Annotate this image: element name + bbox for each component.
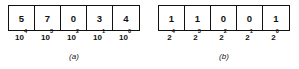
weight-base: 2 (167, 33, 171, 42)
digit-cell: 1 (263, 6, 289, 30)
digit-cell: 3 (87, 6, 113, 30)
weight-base: 2 (271, 33, 275, 42)
weight-label: 100 (112, 33, 138, 42)
weight-base: 10 (41, 33, 50, 42)
positional-notation-figure: 5 7 0 3 4 104 103 102 101 100 (a) 1 1 0 … (0, 0, 299, 69)
digit-box-decimal: 5 7 0 3 4 (8, 5, 140, 31)
weight-base: 10 (119, 33, 128, 42)
weight-label: 104 (8, 33, 34, 42)
weight-base: 10 (93, 33, 102, 42)
digit-cell: 1 (159, 6, 185, 30)
weight-base: 2 (193, 33, 197, 42)
weight-label: 101 (86, 33, 112, 42)
weight-base: 2 (219, 33, 223, 42)
panel-caption: (b) (158, 52, 290, 61)
weight-base: 10 (15, 33, 24, 42)
weight-label: 24 (158, 33, 184, 42)
weight-labels-binary: 24 23 22 21 20 (158, 33, 288, 42)
digit-cell: 0 (237, 6, 263, 30)
weight-label: 103 (34, 33, 60, 42)
weight-labels-decimal: 104 103 102 101 100 (8, 33, 138, 42)
digit-cell: 5 (9, 6, 35, 30)
digit-cell: 4 (113, 6, 139, 30)
digit-cell: 1 (185, 6, 211, 30)
weight-base: 2 (245, 33, 249, 42)
digit-cell: 7 (35, 6, 61, 30)
weight-label: 102 (60, 33, 86, 42)
weight-label: 20 (262, 33, 288, 42)
weight-label: 22 (210, 33, 236, 42)
digit-cell: 0 (211, 6, 237, 30)
digit-cell: 0 (61, 6, 87, 30)
weight-base: 10 (67, 33, 76, 42)
weight-label: 23 (184, 33, 210, 42)
panel-caption: (a) (8, 52, 140, 61)
weight-label: 21 (236, 33, 262, 42)
